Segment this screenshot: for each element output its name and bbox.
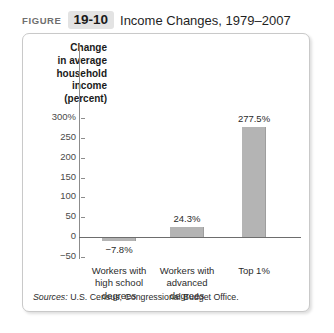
y-tick-mark bbox=[81, 158, 85, 159]
figure-number-badge: 19-10 bbox=[68, 11, 115, 30]
y-tick-label: 300% bbox=[52, 112, 76, 122]
y-tick-label: 150 bbox=[60, 172, 76, 182]
bar-value-label: 277.5% bbox=[224, 114, 284, 124]
y-tick-label: −50 bbox=[60, 251, 76, 261]
category-label-line: advanced bbox=[153, 277, 221, 289]
y-axis-line bbox=[79, 44, 80, 259]
bar-value-label: −7.8% bbox=[89, 245, 149, 255]
source-text: U.S. Census, Congressional Budget Office… bbox=[68, 292, 239, 302]
category-label-line: high school bbox=[85, 277, 153, 289]
y-tick-mark bbox=[81, 197, 85, 198]
figure-title: Income Changes, 1979–2007 bbox=[120, 14, 291, 27]
y-tick-150: 150 bbox=[23, 178, 85, 179]
figure-container: FIGURE 19-10 Income Changes, 1979–2007 C… bbox=[0, 0, 334, 333]
y-tick-100: 100 bbox=[23, 197, 85, 198]
y-tick-mark bbox=[81, 178, 85, 179]
chart-panel: Change in average household income (perc… bbox=[22, 33, 310, 312]
category-label-line: Workers with bbox=[153, 265, 221, 277]
source-label: Sources: bbox=[33, 292, 68, 302]
bar-workers-high-school bbox=[102, 238, 136, 241]
y-tick-label: 250 bbox=[60, 132, 76, 142]
y-tick-50: 50 bbox=[23, 217, 85, 218]
y-tick-label: 100 bbox=[60, 191, 76, 201]
y-tick-200: 200 bbox=[23, 158, 85, 159]
category-label-line: Workers with bbox=[85, 265, 153, 277]
y-tick-label: 50 bbox=[65, 211, 76, 221]
y-tick-mark bbox=[81, 217, 85, 218]
y-tick-neg50: −50 bbox=[23, 257, 85, 258]
category-label-line: Top 1% bbox=[222, 265, 286, 277]
y-tick-label: 0 bbox=[71, 231, 76, 241]
figure-kicker: FIGURE bbox=[22, 15, 62, 26]
category-label-top-1-percent: Top 1% bbox=[222, 265, 286, 277]
zero-baseline bbox=[79, 237, 301, 238]
y-tick-mark bbox=[81, 118, 85, 119]
source-note: Sources: U.S. Census, Congressional Budg… bbox=[33, 292, 239, 302]
bar-workers-advanced bbox=[170, 227, 204, 237]
y-tick-label: 200 bbox=[60, 152, 76, 162]
y-tick-mark bbox=[81, 257, 85, 258]
y-tick-300: 300% bbox=[23, 118, 85, 119]
y-tick-0: 0 bbox=[23, 237, 85, 238]
y-tick-250: 250 bbox=[23, 138, 85, 139]
y-tick-mark bbox=[81, 138, 85, 139]
figure-header: FIGURE 19-10 Income Changes, 1979–2007 bbox=[22, 10, 291, 30]
bar-top-1-percent bbox=[242, 127, 266, 237]
plot-area: 300% 250 200 150 100 50 bbox=[23, 34, 311, 313]
bar-value-label: 24.3% bbox=[157, 214, 217, 224]
